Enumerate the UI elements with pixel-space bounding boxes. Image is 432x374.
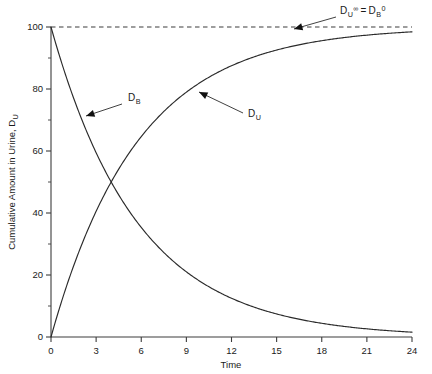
y-axis-title-main: Cumulative Amount in Urine, D xyxy=(6,120,17,250)
x-tick-label-21: 21 xyxy=(362,345,373,356)
x-axis-title: Time xyxy=(221,359,242,370)
db-label-text: DB xyxy=(128,92,141,106)
y-tick-label-60: 60 xyxy=(32,145,43,156)
db-label-group xyxy=(86,104,122,117)
y-tick-label-0: 0 xyxy=(38,331,43,342)
y-axis-title-group: Cumulative Amount in Urine, DU xyxy=(6,114,20,250)
x-tick-label-0: 0 xyxy=(48,345,53,356)
x-tick-label-24: 24 xyxy=(407,345,418,356)
y-tick-label-40: 40 xyxy=(32,207,43,218)
asymptote-label-text: DU∞=DB0 xyxy=(340,4,385,19)
du-label-text: DU xyxy=(248,108,261,122)
pharmacokinetics-chart: 020406080100 03691215182124 DBDUDU∞=DB0 … xyxy=(0,0,432,374)
db-label-arrowhead xyxy=(86,110,95,117)
x-axis-group: 03691215182124 xyxy=(48,337,417,356)
chart-svg: 020406080100 03691215182124 DBDUDU∞=DB0 … xyxy=(0,0,432,374)
x-tick-label-15: 15 xyxy=(271,345,282,356)
x-tick-label-3: 3 xyxy=(93,345,98,356)
y-tick-labels: 020406080100 xyxy=(27,21,43,342)
annotation-layer: DBDUDU∞=DB0 xyxy=(86,4,385,122)
y-axis-group: 020406080100 xyxy=(27,21,51,342)
x-axis-title-group: Time xyxy=(221,359,242,370)
y-axis-title: Cumulative Amount in Urine, DU xyxy=(6,114,20,250)
curve-drug-in-body xyxy=(51,27,412,332)
x-tick-label-18: 18 xyxy=(316,345,327,356)
x-tick-label-12: 12 xyxy=(226,345,237,356)
x-tick-labels: 03691215182124 xyxy=(48,345,417,356)
y-tick-label-80: 80 xyxy=(32,83,43,94)
curve-drug-in-urine xyxy=(51,32,412,337)
y-tick-label-100: 100 xyxy=(27,21,43,32)
x-tick-label-6: 6 xyxy=(139,345,144,356)
y-tick-label-20: 20 xyxy=(32,269,43,280)
x-tick-label-9: 9 xyxy=(184,345,189,356)
y-axis-title-subscript: U xyxy=(11,114,20,119)
asymptote-label-group xyxy=(294,17,336,30)
x-major-ticks xyxy=(51,337,412,342)
du-label-group xyxy=(199,92,243,113)
